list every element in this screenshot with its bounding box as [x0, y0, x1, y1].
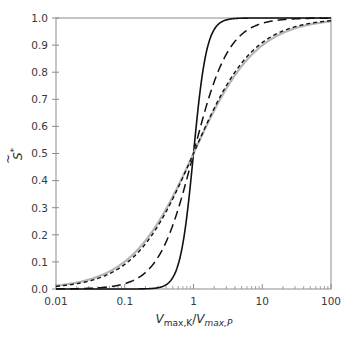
curve-series-4 [56, 21, 331, 287]
plot-curves [56, 18, 331, 289]
y-tick-label: 1.0 [31, 12, 48, 24]
y-axis-title: S* ~ [1, 147, 25, 164]
y-tick-label: 0.0 [31, 283, 48, 295]
y-tick-label: 0.2 [31, 229, 48, 241]
y-tick-label: 0.1 [31, 256, 48, 268]
x-tick-label: 10 [256, 295, 269, 307]
y-tick-label: 0.9 [31, 39, 48, 51]
y-tick-label: 0.5 [31, 147, 48, 159]
y-tick-label: 0.7 [31, 93, 48, 105]
x-tick-label: 0.1 [116, 295, 133, 307]
x-tick-label: 100 [321, 295, 341, 307]
y-tick-label: 0.8 [31, 66, 48, 78]
y-tick-label: 0.6 [31, 120, 48, 132]
y-axis-ticks: 0.00.10.20.30.40.50.60.70.80.91.0 [31, 12, 59, 295]
y-tick-label: 0.3 [31, 202, 48, 214]
x-axis-title: Vmax,K/Vmax,P [156, 312, 233, 328]
x-tick-label: 1 [190, 295, 197, 307]
x-tick-label: 0.01 [44, 295, 67, 307]
y-tick-label: 0.4 [31, 174, 48, 186]
svg-text:~: ~ [1, 154, 15, 164]
x-axis-ticks: 0.010.1110100 [44, 284, 341, 307]
chart-svg: 0.010.1110100 0.00.10.20.30.40.50.60.70.… [0, 0, 352, 339]
